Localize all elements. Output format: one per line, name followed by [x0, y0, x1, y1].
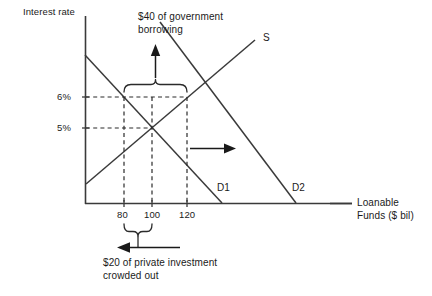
y-axis-title: Interest rate: [23, 6, 75, 18]
x-axis-title-line1: Loanable: [357, 196, 399, 209]
y-tick-label-6pct: 6%: [57, 91, 71, 103]
x-axis-title-line2: Funds ($ bil): [357, 209, 414, 222]
y-tick-label-5pct: 5%: [57, 122, 71, 134]
note-crowded-out-line2: crowded out: [103, 269, 159, 282]
loanable-funds-diagram: Interest rate Loanable Funds ($ bil) 6% …: [0, 0, 432, 296]
note-government-borrowing-line1: $40 of government: [138, 10, 223, 23]
curve-label-d2: D2: [292, 182, 305, 194]
diagram-canvas: [0, 0, 432, 296]
note-crowded-out-line1: $20 of private investment: [103, 256, 217, 269]
demand-curve-d2: [160, 22, 296, 203]
x-tick-label-80: 80: [117, 209, 128, 221]
x-tick-label-100: 100: [144, 209, 160, 221]
crowded-out-arrow-left: [117, 242, 180, 252]
supply-curve-s: [86, 40, 255, 184]
government-borrowing-brace: [124, 80, 187, 93]
note-government-borrowing-line2: borrowing: [138, 23, 183, 36]
x-tick-label-120: 120: [179, 209, 195, 221]
guide-lines: [86, 97, 187, 203]
axes: [85, 16, 352, 204]
curve-label-d1: D1: [217, 182, 230, 194]
curve-label-s: S: [263, 32, 270, 44]
government-borrowing-arrow-up: [151, 44, 160, 78]
demand-shift-arrow-right: [190, 144, 236, 154]
